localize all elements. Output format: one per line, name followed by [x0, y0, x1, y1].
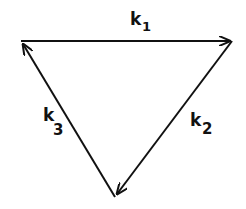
- label-k3: k 3: [43, 105, 63, 139]
- svg-text:k: k: [190, 110, 202, 130]
- edge-k2-arrow: [117, 41, 232, 194]
- label-k1: k 1: [130, 9, 151, 34]
- svg-text:3: 3: [53, 121, 63, 139]
- edge-k3-arrow: [23, 44, 115, 197]
- svg-text:1: 1: [142, 19, 151, 34]
- svg-text:2: 2: [202, 120, 212, 138]
- reaction-cycle-diagram: k 1 k 2 k 3: [0, 0, 246, 209]
- svg-text:k: k: [130, 9, 142, 29]
- label-k2: k 2: [190, 110, 212, 138]
